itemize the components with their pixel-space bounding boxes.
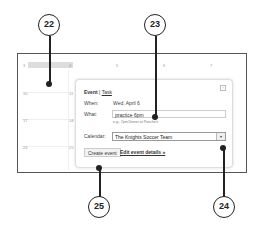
day-number: 5 <box>116 63 118 68</box>
calendar-label: Calendar: <box>84 133 106 139</box>
grid-divider <box>22 146 68 147</box>
day-number: 24 <box>23 145 27 150</box>
day-number: 17 <box>23 118 27 123</box>
day-number: 10 <box>23 91 27 96</box>
callout-22: 22 <box>38 14 60 36</box>
callout-leader <box>49 36 51 83</box>
tab-separator: | <box>99 89 100 95</box>
callout-dot <box>46 81 52 87</box>
calendar-select[interactable]: The Knights Soccer Team ▾ <box>112 132 226 141</box>
what-label: What: <box>84 111 97 117</box>
tab-event[interactable]: Event <box>84 89 98 95</box>
day-number: 4 <box>69 63 71 68</box>
when-value: Wed, April 6 <box>113 100 140 106</box>
what-hint: e.g., 7pm Dinner at Pancho's <box>113 120 158 124</box>
day-number: 11 <box>69 91 73 96</box>
day-number: 7 <box>210 63 212 68</box>
day-number: 25 <box>69 145 73 150</box>
quick-add-event-popup: × Event | Task When: Wed, April 6 What: … <box>75 79 233 168</box>
callout-23: 23 <box>144 14 166 36</box>
edit-event-details-link[interactable]: Edit event details » <box>120 149 165 155</box>
callout-dot <box>152 114 158 120</box>
selected-day-highlight[interactable] <box>28 62 73 68</box>
callout-24: 24 <box>213 196 235 218</box>
grid-divider <box>22 119 68 120</box>
callout-leader <box>223 147 225 197</box>
callout-leader <box>155 36 157 116</box>
what-input[interactable]: practice 6pm <box>112 110 226 118</box>
callout-25: 25 <box>88 196 110 218</box>
day-number: 6 <box>163 63 165 68</box>
calendar-select-value: The Knights Soccer Team <box>115 134 172 140</box>
grid-divider <box>22 92 68 93</box>
callout-dot <box>220 145 226 151</box>
tab-task[interactable]: Task <box>102 89 112 95</box>
day-number: 3 <box>23 63 25 68</box>
event-task-tabs: Event | Task <box>84 89 112 95</box>
chevron-down-icon[interactable]: ▾ <box>216 133 225 140</box>
when-label: When: <box>84 100 98 106</box>
callout-dot <box>96 165 102 171</box>
create-event-button[interactable]: Create event <box>84 148 121 157</box>
close-icon[interactable]: × <box>220 85 226 91</box>
day-number: 18 <box>69 118 73 123</box>
callout-leader <box>99 167 101 197</box>
